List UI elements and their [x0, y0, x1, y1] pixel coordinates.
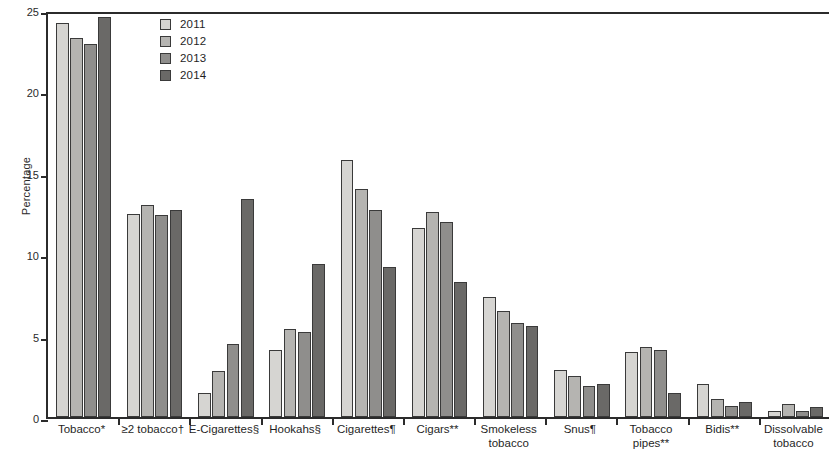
bar — [568, 376, 581, 417]
x-axis-category-label-line1: Hookahs§ — [269, 423, 321, 435]
bar — [440, 222, 453, 417]
legend-item-label: 2013 — [180, 52, 206, 64]
bar — [312, 264, 325, 417]
x-axis-category-label: Dissolvabletobacco — [752, 422, 829, 450]
bar — [84, 44, 97, 417]
y-axis-tick-label: 25 — [27, 6, 39, 18]
legend-item: 2014 — [160, 67, 280, 83]
bar — [383, 267, 396, 417]
legend-item-label: 2011 — [180, 18, 206, 30]
bar — [597, 384, 610, 417]
legend-swatch-icon — [160, 70, 171, 81]
y-axis-tick-mark — [41, 94, 48, 96]
x-axis-category-label-line2: pipes** — [609, 436, 692, 450]
legend-swatch-icon — [160, 19, 171, 30]
bar — [170, 210, 183, 417]
bar — [511, 323, 524, 417]
bar — [227, 344, 240, 417]
bar — [141, 205, 154, 417]
bar — [426, 212, 439, 417]
x-axis-category-label-line1: Dissolvable — [764, 423, 823, 435]
bar — [782, 404, 795, 417]
bar — [269, 350, 282, 417]
x-axis-category-label-line1: Snus¶ — [564, 423, 596, 435]
bar — [554, 370, 567, 417]
bar — [483, 297, 496, 417]
bar — [298, 332, 311, 417]
bar — [810, 407, 823, 417]
bar — [70, 38, 83, 417]
bar — [668, 393, 681, 417]
legend-item: 2012 — [160, 33, 280, 49]
bar — [284, 329, 297, 417]
legend-swatch-icon — [160, 36, 171, 47]
bar — [583, 386, 596, 417]
y-axis-tick-mark — [41, 339, 48, 341]
x-axis-category-label-line1: Tobacco — [630, 423, 673, 435]
y-axis-tick-label: 15 — [27, 169, 39, 181]
bar — [739, 402, 752, 417]
chart-legend: 2011201220132014 — [160, 16, 280, 84]
bar — [369, 210, 382, 417]
bar — [155, 215, 168, 417]
bar — [454, 282, 467, 417]
y-axis-tick-mark — [41, 257, 48, 259]
bar — [212, 371, 225, 417]
y-axis-tick-label: 0 — [33, 413, 39, 425]
x-axis-category-label-line2: tobacco — [752, 436, 829, 450]
bar — [127, 214, 140, 418]
bar — [355, 189, 368, 417]
bar — [198, 393, 211, 417]
x-axis-category-label-line1: Smokeless — [481, 423, 537, 435]
bar — [526, 326, 539, 417]
bar-chart: Percentage 0510152025 Tobacco*≥2 tobacco… — [0, 0, 829, 461]
x-axis-category-label-line1: Bidis** — [705, 423, 739, 435]
bar — [796, 411, 809, 418]
x-axis-category-label-line1: Tobacco* — [58, 423, 105, 435]
bar — [98, 17, 111, 417]
x-axis-category-label-line2: tobacco — [467, 436, 550, 450]
legend-item: 2013 — [160, 50, 280, 66]
x-axis-labels: Tobacco*≥2 tobacco†E-Cigarettes§Hookahs§… — [46, 422, 829, 461]
y-axis-tick-mark — [41, 176, 48, 178]
legend-item-label: 2012 — [180, 35, 206, 47]
y-axis-tick-label: 5 — [33, 332, 39, 344]
bar — [768, 411, 781, 418]
y-axis-tick-label: 20 — [27, 87, 39, 99]
y-axis-title: Percentage — [20, 126, 32, 246]
bar — [711, 399, 724, 417]
bar — [341, 160, 354, 417]
x-axis-category-label-line1: Cigarettes¶ — [337, 423, 396, 435]
x-axis-category-label-line1: ≥2 tobacco† — [121, 423, 184, 435]
y-axis-tick-mark — [41, 13, 48, 15]
x-axis-category-label-line1: E-Cigarettes§ — [189, 423, 259, 435]
legend-item-label: 2014 — [180, 69, 206, 81]
x-axis-category-label-line1: Cigars** — [416, 423, 458, 435]
bar — [625, 352, 638, 417]
legend-item: 2011 — [160, 16, 280, 32]
y-axis-tick-label: 10 — [27, 250, 39, 262]
bar — [241, 199, 254, 417]
bar — [725, 406, 738, 417]
legend-swatch-icon — [160, 53, 171, 64]
bar — [412, 228, 425, 417]
bar — [697, 384, 710, 417]
bar — [56, 23, 69, 417]
bar — [640, 347, 653, 417]
bar — [654, 350, 667, 417]
bar — [497, 311, 510, 417]
